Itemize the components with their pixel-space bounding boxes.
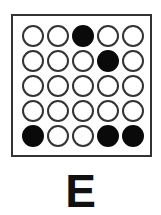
dot-grid: [22, 25, 144, 147]
filled-circle-icon: [122, 125, 144, 147]
empty-circle-icon: [47, 25, 69, 47]
empty-circle-icon: [22, 25, 44, 47]
empty-circle-icon: [22, 75, 44, 97]
filled-circle-icon: [22, 125, 44, 147]
empty-circle-icon: [47, 50, 69, 72]
empty-circle-icon: [97, 25, 119, 47]
empty-circle-icon: [72, 100, 94, 122]
dot-grid-board: [11, 14, 152, 157]
option-label: E: [0, 168, 161, 214]
empty-circle-icon: [72, 125, 94, 147]
empty-circle-icon: [122, 75, 144, 97]
empty-circle-icon: [47, 125, 69, 147]
filled-circle-icon: [97, 50, 119, 72]
empty-circle-icon: [22, 100, 44, 122]
empty-circle-icon: [22, 50, 44, 72]
empty-circle-icon: [72, 50, 94, 72]
empty-circle-icon: [97, 75, 119, 97]
empty-circle-icon: [97, 100, 119, 122]
filled-circle-icon: [72, 25, 94, 47]
empty-circle-icon: [47, 100, 69, 122]
empty-circle-icon: [122, 25, 144, 47]
empty-circle-icon: [122, 50, 144, 72]
empty-circle-icon: [122, 100, 144, 122]
filled-circle-icon: [97, 125, 119, 147]
empty-circle-icon: [72, 75, 94, 97]
empty-circle-icon: [47, 75, 69, 97]
